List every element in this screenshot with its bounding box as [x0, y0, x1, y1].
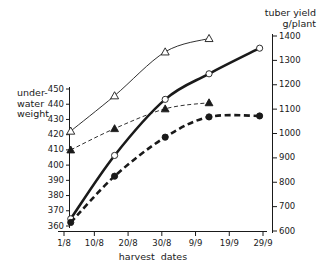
marker-triangle-filled — [111, 125, 119, 132]
chart-figure: under- water weight tuber yield g/plant … — [0, 0, 317, 270]
marker-triangle-filled — [205, 99, 213, 106]
left-tick-label-6: 420 — [26, 129, 64, 139]
marker-circle-open — [111, 152, 117, 158]
marker-triangle-open — [205, 34, 213, 41]
left-tick-label-3: 390 — [26, 175, 64, 185]
x-tick-label-4: 9/9 — [180, 238, 212, 248]
right-tick-label-2: 800 — [279, 177, 313, 187]
marker-circle-filled — [162, 134, 168, 140]
x-tick-label-2: 20/8 — [112, 238, 144, 248]
series-filled-circle — [68, 113, 263, 226]
right-tick-label-1: 700 — [279, 201, 313, 211]
marker-circle-filled — [257, 113, 263, 119]
x-tick-label-3: 30/8 — [146, 238, 178, 248]
right-tick-label-8: 1400 — [279, 31, 313, 41]
x-tick-label-1: 10/8 — [78, 238, 110, 248]
marker-circle-open — [206, 71, 212, 77]
left-tick-label-7: 430 — [26, 114, 64, 124]
x-tick-label-0: 1/8 — [48, 238, 80, 248]
marker-circle-open — [162, 96, 168, 102]
marker-triangle-open — [161, 48, 169, 55]
right-tick-label-5: 1100 — [279, 104, 313, 114]
series-line-filled-circle — [71, 115, 260, 222]
right-tick-label-0: 600 — [279, 226, 313, 236]
right-tick-label-6: 1200 — [279, 79, 313, 89]
right-tick-label-7: 1300 — [279, 55, 313, 65]
left-tick-label-5: 410 — [26, 144, 64, 154]
series-open-circle — [68, 45, 263, 222]
left-tick-label-1: 370 — [26, 205, 64, 215]
left-tick-label-8: 440 — [26, 99, 64, 109]
left-tick-label-9: 450 — [26, 84, 64, 94]
left-tick-label-0: 360 — [26, 221, 64, 231]
marker-triangle-open — [67, 127, 75, 134]
marker-circle-filled — [68, 219, 74, 225]
right-tick-label-4: 1000 — [279, 128, 313, 138]
marker-circle-filled — [206, 114, 212, 120]
right-tick-label-3: 900 — [279, 152, 313, 162]
marker-circle-open — [257, 45, 263, 51]
left-tick-label-4: 400 — [26, 160, 64, 170]
marker-circle-filled — [111, 173, 117, 179]
series-open-triangle — [67, 34, 213, 134]
x-tick-label-5: 19/9 — [213, 238, 245, 248]
left-tick-label-2: 380 — [26, 190, 64, 200]
x-tick-label-6: 29/9 — [247, 238, 279, 248]
